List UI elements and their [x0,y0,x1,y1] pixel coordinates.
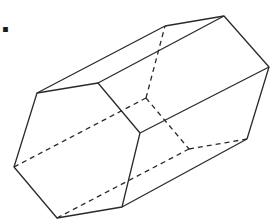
lateral-edge-c [140,67,269,133]
lateral-edge-d [122,139,247,207]
lateral-edge-a [37,26,165,93]
hexagonal-prism-diagram [0,0,271,220]
back-visible-edges [165,16,269,139]
front-hexagon-face [14,83,140,218]
hidden-lateral-edge-f [14,98,146,167]
hidden-lateral-edge-e [57,149,189,218]
hidden-back-edge-fe [146,98,189,149]
lateral-edge-b [98,16,224,83]
hidden-back-edge-fa [146,26,165,98]
